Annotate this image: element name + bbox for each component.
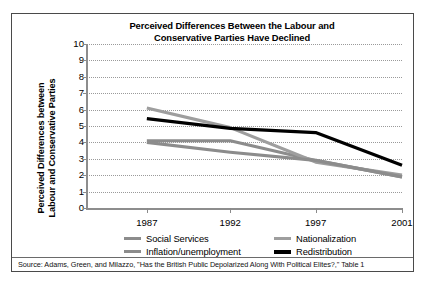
plot-wrapper: 109876543210 1987199219972001 <box>58 44 402 210</box>
series-line <box>147 142 402 176</box>
y-tick-label: 6 <box>62 105 84 115</box>
y-axis-title: Perceived Differences between Labour and… <box>36 63 60 233</box>
chart-title-line-1: Perceived Differences Between the Labour… <box>72 20 392 32</box>
x-tick-label: 1992 <box>200 217 260 228</box>
y-tick-label: 5 <box>62 121 84 131</box>
legend-swatch-icon <box>124 250 141 253</box>
legend-item: Social Services <box>124 233 274 244</box>
plot-area: 109876543210 1987199219972001 <box>86 44 402 208</box>
x-tick-mark <box>402 208 403 213</box>
y-tick-label: 1 <box>62 187 84 197</box>
chart-title-line-2: Conservative Parties Have Declined <box>72 32 392 44</box>
x-tick-label: 1997 <box>286 217 346 228</box>
legend-label: Social Services <box>146 233 209 244</box>
chart-figure: Perceived Differences Between the Labour… <box>11 13 414 272</box>
legend-swatch-icon <box>274 250 291 254</box>
y-axis-title-line-2: Labour and Conservative Parties <box>47 63 58 233</box>
y-tick-label: 7 <box>62 88 84 98</box>
y-axis-title-line-1: Perceived Differences between <box>36 63 47 233</box>
y-tick-label: 8 <box>62 72 84 82</box>
legend-item: Inflation/unemployment <box>124 246 274 257</box>
y-tick-label: 2 <box>62 170 84 180</box>
legend-row: Social ServicesNationalization <box>124 232 404 245</box>
legend-item: Nationalization <box>274 233 404 244</box>
x-axis-line <box>86 208 402 210</box>
source-divider <box>12 257 414 258</box>
x-tick-mark <box>230 208 231 213</box>
legend-label: Redistribution <box>296 246 352 257</box>
legend-swatch-icon <box>274 237 291 240</box>
legend-label: Nationalization <box>296 233 356 244</box>
x-tick-mark <box>316 208 317 213</box>
y-tick-label: 3 <box>62 154 84 164</box>
y-tick-label: 4 <box>62 137 84 147</box>
x-tick-label: 2001 <box>372 217 414 228</box>
x-tick-label: 1987 <box>117 217 177 228</box>
y-tick-label: 9 <box>62 55 84 65</box>
x-tick-mark <box>147 208 148 213</box>
chart-legend: Social ServicesNationalizationInflation/… <box>124 232 404 258</box>
legend-label: Inflation/unemployment <box>146 246 241 257</box>
y-tick-label: 10 <box>62 39 84 49</box>
chart-title: Perceived Differences Between the Labour… <box>72 20 392 44</box>
legend-swatch-icon <box>124 237 141 240</box>
series-layer <box>86 44 402 208</box>
source-note: Source: Adams, Green, and Milazzo, "Has … <box>18 260 414 270</box>
y-tick-label: 0 <box>62 203 84 213</box>
legend-item: Redistribution <box>274 246 404 257</box>
